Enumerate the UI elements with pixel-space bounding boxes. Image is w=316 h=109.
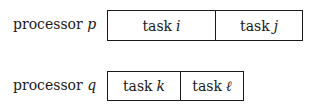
task-word: task [123, 78, 153, 94]
task-var: i [176, 18, 180, 34]
task-j-box: taskj [215, 11, 302, 40]
task-word: task [192, 78, 222, 94]
task-var: k [157, 78, 165, 94]
task-k-box: taskk [108, 72, 180, 100]
label-var: p [87, 16, 96, 32]
processor-q-schedule: taskk taskℓ [107, 71, 244, 101]
processor-p-label: processor p [13, 16, 96, 32]
task-word: task [240, 18, 270, 34]
task-word: task [142, 18, 172, 34]
label-text: processor [13, 16, 83, 32]
task-var: j [274, 18, 278, 34]
label-text: processor [13, 77, 83, 93]
task-i-box: taski [108, 11, 215, 40]
label-var: q [87, 77, 96, 93]
task-l-box: taskℓ [180, 72, 243, 100]
processor-p-schedule: taski taskj [107, 10, 303, 41]
processor-q-label: processor q [13, 77, 96, 93]
task-var: ℓ [226, 78, 232, 95]
